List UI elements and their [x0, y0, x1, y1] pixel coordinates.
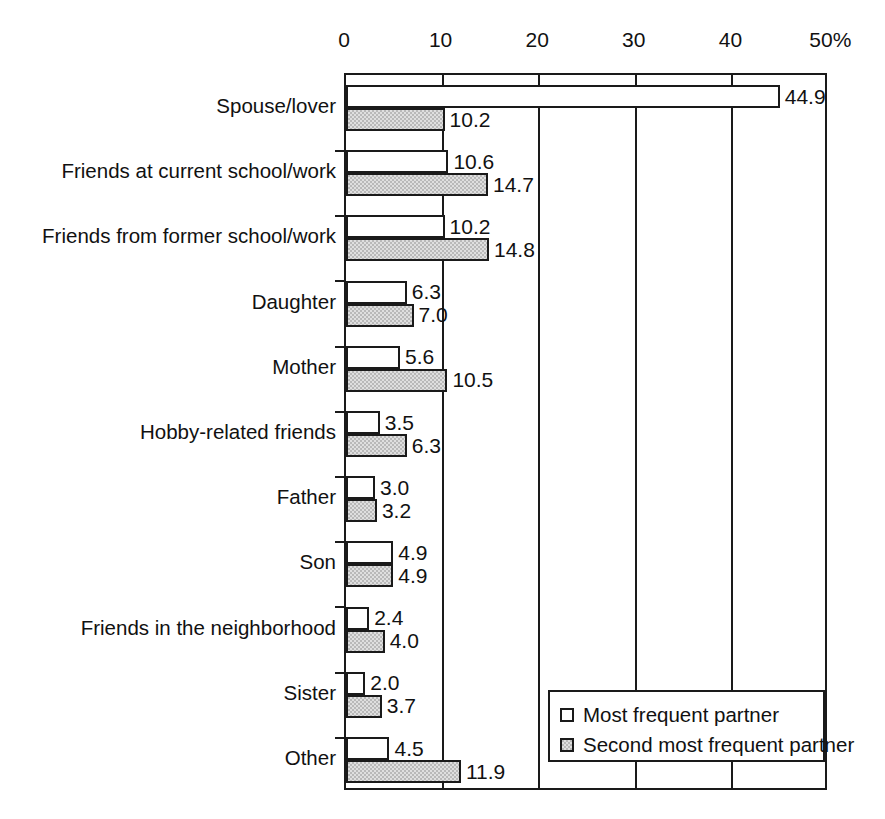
bar-value-most-0: 44.9: [785, 85, 826, 109]
plot-area: 44.910.210.614.710.214.86.37.05.610.53.5…: [344, 73, 827, 790]
bar-most-0: [346, 85, 780, 108]
bar-chart: 01020304050% Spouse/loverFriends at curr…: [0, 0, 885, 819]
legend-item-second-most-frequent: Second most frequent partner: [560, 730, 823, 760]
bar-value-second-7: 4.9: [398, 564, 427, 588]
category-tick-7: [335, 606, 346, 608]
x-tick-label-40: 40: [719, 28, 742, 52]
category-label-0: Spouse/lover: [0, 94, 336, 118]
legend-swatch-gray-icon: [560, 738, 574, 752]
bar-most-1: [346, 150, 448, 173]
bar-most-3: [346, 281, 407, 304]
bar-value-most-7: 4.9: [398, 541, 427, 565]
category-label-1: Friends at current school/work: [0, 159, 336, 183]
bar-second-9: [346, 695, 382, 718]
bar-second-4: [346, 369, 447, 392]
gridline-40: [731, 75, 733, 788]
bar-value-most-10: 4.5: [394, 737, 423, 761]
bar-value-second-1: 14.7: [493, 173, 534, 197]
bar-value-second-8: 4.0: [390, 629, 419, 653]
category-tick-4: [335, 411, 346, 413]
category-tick-9: [335, 737, 346, 739]
bar-most-4: [346, 346, 400, 369]
bar-value-second-0: 10.2: [450, 108, 491, 132]
category-tick-1: [335, 215, 346, 217]
bar-second-10: [346, 760, 461, 783]
category-tick-8: [335, 672, 346, 674]
x-tick-label-0: 0: [338, 28, 350, 52]
x-tick-label-20: 20: [526, 28, 549, 52]
x-tick-label-50: 50%: [809, 28, 851, 52]
bar-value-most-3: 6.3: [412, 280, 441, 304]
bar-most-7: [346, 541, 393, 564]
bar-value-second-9: 3.7: [387, 694, 416, 718]
category-label-4: Mother: [0, 355, 336, 379]
bar-value-second-3: 7.0: [419, 303, 448, 327]
category-tick-0: [335, 150, 346, 152]
bar-second-3: [346, 304, 414, 327]
bar-value-second-5: 6.3: [412, 434, 441, 458]
category-label-2: Friends from former school/work: [0, 224, 336, 248]
bar-value-most-1: 10.6: [453, 150, 494, 174]
bar-value-second-4: 10.5: [452, 368, 493, 392]
x-tick-label-30: 30: [622, 28, 645, 52]
bar-value-most-4: 5.6: [405, 345, 434, 369]
bar-second-8: [346, 630, 385, 653]
bar-second-6: [346, 499, 377, 522]
bar-value-most-2: 10.2: [450, 215, 491, 239]
legend-label-most-frequent: Most frequent partner: [583, 703, 779, 727]
legend-swatch-white-icon: [560, 708, 574, 722]
bar-most-2: [346, 215, 445, 238]
category-tick-5: [335, 476, 346, 478]
category-tick-6: [335, 541, 346, 543]
category-label-6: Father: [0, 485, 336, 509]
category-label-3: Daughter: [0, 290, 336, 314]
bar-second-1: [346, 173, 488, 196]
bar-most-8: [346, 607, 369, 630]
bar-value-second-2: 14.8: [494, 238, 535, 262]
gridline-30: [635, 75, 637, 788]
bar-value-second-10: 11.9: [466, 760, 505, 784]
legend: Most frequent partner Second most freque…: [548, 690, 825, 762]
category-label-5: Hobby-related friends: [0, 420, 336, 444]
bar-value-most-6: 3.0: [380, 476, 409, 500]
bar-most-9: [346, 672, 365, 695]
category-tick-3: [335, 346, 346, 348]
category-label-9: Sister: [0, 681, 336, 705]
legend-item-most-frequent: Most frequent partner: [560, 700, 823, 730]
bar-second-7: [346, 564, 393, 587]
gridline-20: [538, 75, 540, 788]
x-tick-label-10: 10: [429, 28, 452, 52]
legend-label-second-most-frequent: Second most frequent partner: [583, 733, 854, 757]
bar-most-5: [346, 411, 380, 434]
category-tick-2: [335, 280, 346, 282]
bar-value-most-5: 3.5: [385, 411, 414, 435]
bar-second-0: [346, 108, 445, 131]
bar-most-6: [346, 476, 375, 499]
category-label-7: Son: [0, 550, 336, 574]
bar-value-most-8: 2.4: [374, 606, 403, 630]
bar-second-2: [346, 238, 489, 261]
bar-second-5: [346, 434, 407, 457]
bar-most-10: [346, 737, 389, 760]
bar-value-most-9: 2.0: [370, 671, 399, 695]
category-label-8: Friends in the neighborhood: [0, 616, 336, 640]
bar-value-second-6: 3.2: [382, 499, 411, 523]
category-label-10: Other: [0, 746, 336, 770]
